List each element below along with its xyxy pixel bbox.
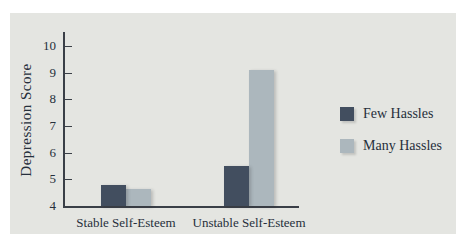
y-tick-mark (65, 126, 72, 127)
y-tick-label: 5 (24, 172, 56, 186)
y-tick-mark (65, 99, 72, 100)
legend-label: Few Hassles (363, 106, 433, 121)
legend-swatch (340, 107, 354, 121)
bar-few-hassles (224, 166, 249, 206)
legend-item: Few Hassles (340, 106, 442, 121)
y-tick-mark (65, 206, 72, 207)
y-tick-label: 7 (24, 119, 56, 133)
y-tick-label: 8 (24, 92, 56, 106)
y-tick-mark (65, 179, 72, 180)
y-tick-mark (65, 46, 72, 47)
y-tick-mark (65, 153, 72, 154)
legend-item: Many Hassles (340, 138, 442, 153)
chart-panel: Depression Score 45678910 Stable Self-Es… (10, 13, 456, 234)
legend-label: Many Hassles (363, 138, 442, 153)
y-tick-mark (65, 73, 72, 74)
figure: Depression Score 45678910 Stable Self-Es… (0, 0, 468, 246)
y-tick-label: 6 (24, 146, 56, 160)
x-category-label: Unstable Self-Esteem (159, 215, 339, 230)
bar-many-hassles (249, 70, 274, 206)
x-axis-line (63, 206, 299, 208)
y-tick-label: 10 (24, 39, 56, 53)
y-axis-line (63, 32, 65, 208)
legend-swatch (340, 139, 354, 153)
y-tick-label: 4 (24, 199, 56, 213)
bar-many-hassles (126, 189, 151, 206)
legend: Few HasslesMany Hassles (340, 106, 442, 170)
y-tick-label: 9 (24, 66, 56, 80)
bar-few-hassles (101, 185, 126, 206)
